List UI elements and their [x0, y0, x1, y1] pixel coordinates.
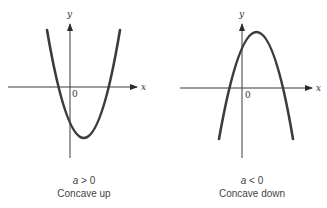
panel-concave-up: x y 0 a > 0 Concave up	[8, 9, 146, 199]
x-axis-label: x	[141, 82, 146, 92]
caption: Concave up	[57, 188, 111, 199]
parabola-concave-down	[219, 32, 293, 139]
parabola-concave-up	[47, 30, 120, 138]
condition-label: a > 0	[73, 175, 96, 186]
panel-concave-down: x y 0 a < 0 Concave down	[180, 9, 321, 199]
caption: Concave down	[219, 188, 285, 199]
origin-label: 0	[245, 90, 251, 100]
origin-label: 0	[72, 89, 78, 99]
figure: x y 0 a > 0 Concave up x y 0 a < 0 Conca…	[0, 0, 327, 208]
y-axis-label: y	[238, 9, 245, 19]
y-axis-label: y	[66, 9, 73, 19]
x-axis-label: x	[316, 83, 321, 93]
condition-label: a < 0	[241, 175, 264, 186]
